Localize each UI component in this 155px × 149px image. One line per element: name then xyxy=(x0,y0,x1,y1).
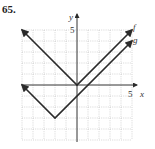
graph: y 5 5 x f g xyxy=(0,0,155,149)
f-label: f xyxy=(133,22,137,32)
g-label: g xyxy=(133,35,138,45)
x-tick-label: 5 xyxy=(128,89,133,99)
y-axis-label: y xyxy=(68,12,73,22)
x-axis-label: x xyxy=(139,89,144,99)
y-tick-label: 5 xyxy=(70,25,75,35)
